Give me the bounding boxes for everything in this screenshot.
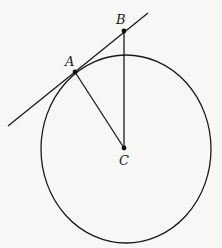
point-c — [122, 146, 127, 151]
diagram-svg: A B C — [0, 0, 222, 248]
label-a: A — [64, 54, 74, 69]
geometry-diagram: A B C — [0, 0, 222, 248]
tangent-line — [8, 13, 148, 126]
label-c: C — [119, 153, 129, 168]
label-b: B — [115, 12, 126, 27]
segment-ac — [75, 72, 124, 148]
point-b — [122, 29, 127, 34]
point-a — [73, 70, 78, 75]
